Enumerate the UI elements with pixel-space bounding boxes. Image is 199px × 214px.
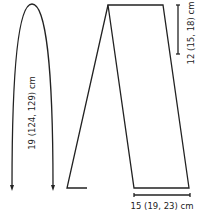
fold-depth-dimension: 12 (15, 18) cm (176, 2, 196, 65)
fold-depth-label: 12 (15, 18) cm (186, 2, 196, 65)
arrow-down-icon (51, 185, 55, 191)
scarf-schematic: 19 (124, 129) cm 12 (15, 18) cm 15 (19, … (0, 0, 199, 214)
scarf-outline (67, 5, 189, 188)
length-label: 19 (124, 129) cm (27, 76, 37, 150)
scarf-front-panel (108, 5, 189, 188)
length-dimension: 19 (124, 129) cm (10, 4, 55, 191)
width-label: 15 (19, 23) cm (131, 201, 194, 211)
scarf-back-panel (67, 5, 108, 188)
width-dimension: 15 (19, 23) cm (131, 193, 194, 211)
arrow-down-icon (10, 185, 14, 191)
